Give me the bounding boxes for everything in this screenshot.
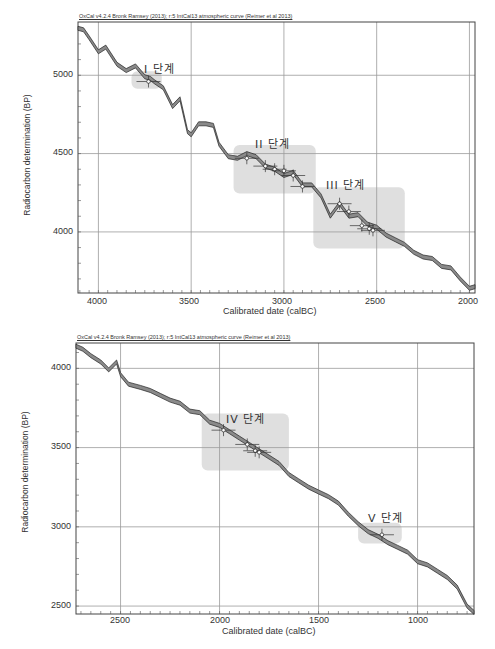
sample-point [257, 451, 261, 455]
bottom-xtick: 2000 [210, 615, 230, 625]
top-ytick: 4000 [53, 226, 73, 236]
sample-point [282, 169, 286, 173]
bottom-ytick: 2500 [51, 600, 71, 610]
sample-point [380, 533, 384, 537]
phase-label-4: IV 단계 [226, 410, 265, 426]
bottom-chart-plot [0, 325, 495, 649]
top-chart-header: OxCal v4.2.4 Bronk Ramsey (2013); r:5 In… [79, 13, 292, 19]
phase-label-1: I 단계 [144, 60, 175, 76]
bottom-chart-header: OxCal v4.2.4 Bronk Ramsey (2013); r:5 In… [77, 334, 290, 340]
sample-point [301, 185, 305, 189]
calibration-curve-band [76, 344, 474, 614]
plot-frame [76, 343, 474, 614]
sample-point [371, 229, 375, 233]
sample-point [245, 156, 249, 160]
phase-label-3: III 단계 [326, 176, 365, 192]
sample-point [347, 210, 351, 214]
top-chart: OxCal v4.2.4 Bronk Ramsey (2013); r:5 In… [0, 0, 495, 325]
bottom-xtick: 1500 [309, 615, 329, 625]
sample-point [264, 164, 268, 168]
top-xtick: 3000 [272, 296, 292, 306]
top-chart-plot [0, 0, 495, 325]
top-xtick: 2500 [365, 296, 385, 306]
top-chart-xlabel: Calibrated date (calBC) [223, 306, 317, 316]
top-xtick: 4000 [87, 296, 107, 306]
sample-point [338, 202, 342, 206]
top-ytick: 5000 [53, 69, 73, 79]
sample-point [291, 174, 295, 178]
top-ytick: 4500 [53, 147, 73, 157]
bottom-ytick: 3000 [51, 521, 71, 531]
phase-highlight-box [358, 523, 402, 544]
bottom-xtick: 2500 [110, 615, 130, 625]
top-xtick: 2000 [458, 296, 478, 306]
sample-point [245, 443, 249, 447]
top-chart-ylabel: Radiocarbon determination (BP) [22, 90, 32, 220]
bottom-ytick: 3500 [51, 441, 71, 451]
sample-point [147, 80, 151, 84]
sample-point [222, 428, 226, 432]
bottom-chart: OxCal v4.2.4 Bronk Ramsey (2013); r:5 In… [0, 325, 495, 649]
bottom-chart-xlabel: Calibrated date (calBC) [222, 626, 316, 636]
phase-label-2: II 단계 [255, 135, 290, 151]
bottom-xtick: 1000 [408, 615, 428, 625]
bottom-ytick: 4000 [51, 362, 71, 372]
top-xtick: 3500 [179, 296, 199, 306]
phase-label-5: V 단계 [368, 509, 403, 525]
sample-point [360, 224, 364, 228]
bottom-chart-ylabel: Radiocarbon determination (BP) [20, 407, 30, 537]
